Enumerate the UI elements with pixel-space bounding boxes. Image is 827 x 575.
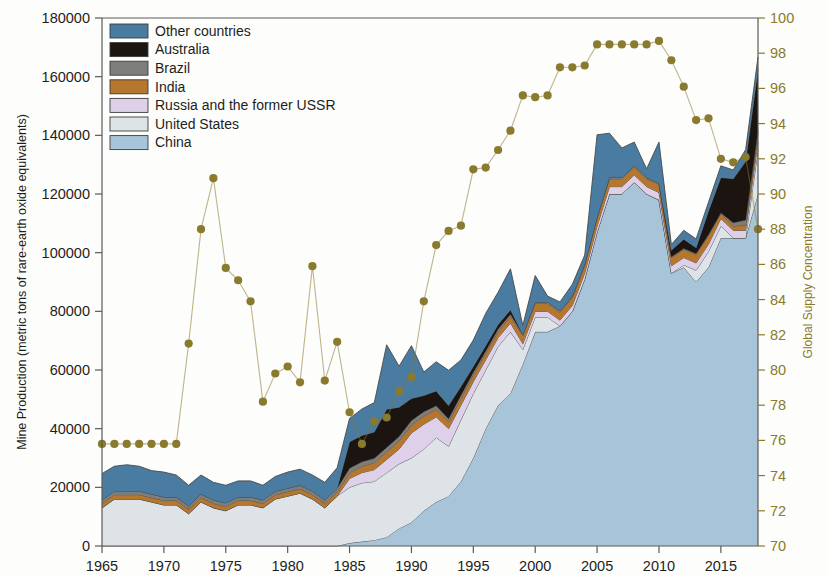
supply-concentration-point: [742, 153, 750, 161]
supply-concentration-point: [321, 376, 329, 384]
y2-axis-tick-label: 92: [770, 151, 786, 167]
x-axis-tick-label: 2005: [581, 558, 613, 574]
supply-concentration-point: [704, 114, 712, 122]
y-axis-tick-label: 140000: [42, 127, 90, 143]
y-axis-tick-label: 40000: [50, 421, 90, 437]
y-axis-tick-label: 80000: [50, 303, 90, 319]
supply-concentration-point: [135, 440, 143, 448]
y2-axis-title: Global Supply Concentration: [801, 206, 815, 359]
x-axis-tick-label: 1975: [210, 558, 242, 574]
supply-concentration-point: [160, 440, 168, 448]
y2-axis-tick-label: 70: [770, 538, 786, 554]
supply-concentration-point: [110, 440, 118, 448]
y-axis-tick-label: 160000: [42, 69, 90, 85]
y-axis-tick-label: 60000: [50, 362, 90, 378]
supply-concentration-point: [655, 37, 663, 45]
supply-concentration-point: [506, 127, 514, 135]
supply-concentration-point: [358, 440, 366, 448]
y-axis-tick-label: 20000: [50, 479, 90, 495]
legend-label: Australia: [155, 41, 210, 57]
x-axis-tick-label: 2000: [519, 558, 551, 574]
supply-concentration-point: [147, 440, 155, 448]
legend-swatch: [110, 24, 148, 38]
supply-concentration-point: [531, 93, 539, 101]
supply-concentration-point: [420, 297, 428, 305]
legend-swatch: [110, 61, 148, 75]
legend-swatch: [110, 43, 148, 57]
x-axis-tick-label: 2015: [705, 558, 737, 574]
y2-axis-tick-label: 72: [770, 503, 786, 519]
supply-concentration-point: [172, 440, 180, 448]
supply-concentration-point: [271, 369, 279, 377]
supply-concentration-point: [494, 146, 502, 154]
y2-axis-tick-label: 80: [770, 362, 786, 378]
supply-concentration-point: [259, 398, 267, 406]
x-axis-tick-label: 1970: [148, 558, 180, 574]
legend-label: Other countries: [155, 23, 251, 39]
supply-concentration-point: [643, 40, 651, 48]
y2-axis-tick-label: 74: [770, 468, 786, 484]
y2-axis-tick-label: 100: [770, 10, 794, 26]
y2-axis-tick-label: 84: [770, 292, 786, 308]
supply-concentration-point: [630, 40, 638, 48]
y2-axis-tick-label: 82: [770, 327, 786, 343]
legend-swatch: [110, 136, 148, 150]
x-axis-tick-label: 1985: [333, 558, 365, 574]
supply-concentration-point: [222, 264, 230, 272]
supply-concentration-point: [185, 340, 193, 348]
supply-concentration-point: [209, 174, 217, 182]
supply-concentration-point: [581, 61, 589, 69]
supply-concentration-point: [680, 83, 688, 91]
x-axis-tick-label: 1980: [272, 558, 304, 574]
supply-concentration-point: [593, 40, 601, 48]
supply-concentration-point: [308, 262, 316, 270]
supply-concentration-point: [568, 63, 576, 71]
x-axis-tick-label: 1990: [395, 558, 427, 574]
y2-axis-tick-label: 88: [770, 221, 786, 237]
x-axis-tick-label: 1965: [86, 558, 118, 574]
supply-concentration-point: [333, 338, 341, 346]
supply-concentration-point: [469, 165, 477, 173]
supply-concentration-point: [345, 408, 353, 416]
y2-axis-tick-label: 86: [770, 256, 786, 272]
supply-concentration-point: [556, 63, 564, 71]
x-axis-tick-label: 2010: [643, 558, 675, 574]
y-axis-tick-label: 100000: [42, 245, 90, 261]
legend-label: Russia and the former USSR: [155, 97, 336, 113]
legend-label: China: [155, 134, 192, 150]
supply-concentration-point: [432, 241, 440, 249]
supply-concentration-point: [717, 155, 725, 163]
supply-concentration-point: [395, 387, 403, 395]
supply-concentration-point: [482, 164, 490, 172]
supply-concentration-point: [667, 56, 675, 64]
y2-axis-tick-label: 98: [770, 45, 786, 61]
legend-swatch: [110, 98, 148, 112]
y2-axis-tick-label: 90: [770, 186, 786, 202]
y-axis-tick-label: 120000: [42, 186, 90, 202]
rare-earth-mine-production-chart: 0200004000060000800001000001200001400001…: [0, 0, 827, 575]
supply-concentration-point: [123, 440, 131, 448]
supply-concentration-point: [729, 158, 737, 166]
y-axis-title: Mine Production (metric tons of rare-ear…: [15, 114, 29, 450]
supply-concentration-point: [407, 373, 415, 381]
supply-concentration-point: [234, 276, 242, 284]
y-axis-tick-label: 0: [82, 538, 90, 554]
supply-concentration-point: [370, 417, 378, 425]
supply-concentration-point: [197, 225, 205, 233]
supply-concentration-point: [284, 362, 292, 370]
legend-label: India: [155, 79, 186, 95]
supply-concentration-point: [605, 40, 613, 48]
supply-concentration-point: [543, 91, 551, 99]
y-axis-tick-label: 180000: [42, 10, 90, 26]
supply-concentration-point: [618, 40, 626, 48]
supply-concentration-point: [246, 297, 254, 305]
y2-axis-tick-label: 76: [770, 432, 786, 448]
y2-axis-tick-label: 78: [770, 397, 786, 413]
x-axis-tick-label: 1995: [457, 558, 489, 574]
supply-concentration-point: [457, 222, 465, 230]
legend-swatch: [110, 80, 148, 94]
legend-swatch: [110, 117, 148, 131]
legend-label: Brazil: [155, 60, 190, 76]
supply-concentration-point: [692, 116, 700, 124]
supply-concentration-point: [383, 413, 391, 421]
